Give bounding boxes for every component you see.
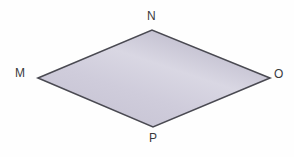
vertex-label-p: P [149, 132, 157, 144]
vertex-label-m: M [15, 67, 25, 79]
vertex-label-o: O [274, 68, 284, 80]
figure-canvas: M N O P [0, 0, 294, 157]
rhombus-shape [38, 30, 270, 127]
vertex-label-n: N [147, 10, 156, 22]
rhombus-diagram [0, 0, 294, 157]
